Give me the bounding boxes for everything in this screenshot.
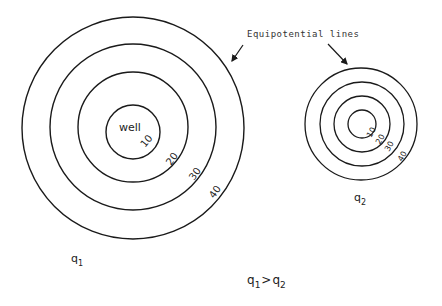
contour-label-10: 10 xyxy=(138,132,155,149)
q2-label: q2 xyxy=(354,191,366,207)
contour-label-40: 40 xyxy=(396,150,409,163)
relation-label: q1>q2 xyxy=(247,273,286,290)
contour-label-40: 40 xyxy=(207,183,223,200)
contour-40 xyxy=(305,68,417,180)
arrow-to-left-contour-icon xyxy=(232,45,243,61)
contour-30 xyxy=(320,82,404,166)
equipotential-diagram: well 10 20 30 40 q1 10 20 30 40 q2 Equip… xyxy=(0,0,442,306)
q1-label: q1 xyxy=(71,252,83,268)
equipotential-lines-label: Equipotential lines xyxy=(247,29,359,39)
contour-label-20: 20 xyxy=(164,150,180,167)
contour-label-30: 30 xyxy=(187,165,203,182)
arrow-to-right-contour-icon xyxy=(328,44,347,64)
well-label: well xyxy=(119,121,141,134)
right-well-contours xyxy=(305,68,417,180)
